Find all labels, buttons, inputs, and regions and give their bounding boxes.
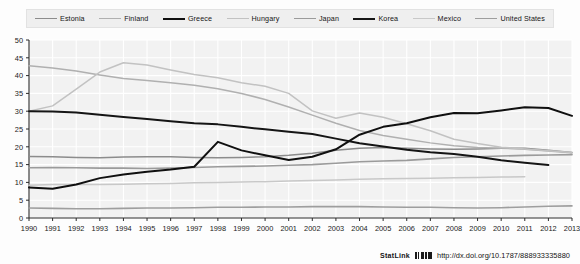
x-axis-tick-label: 1993 [92, 224, 108, 233]
legend-label: Finland [124, 14, 148, 23]
x-axis-tick-label: 1994 [115, 224, 131, 233]
legend-swatch-line-icon [475, 18, 497, 19]
legend-swatch-line-icon [227, 18, 249, 19]
x-axis-tick-label: 2009 [469, 224, 485, 233]
y-axis-tick-label: 45 [15, 54, 23, 63]
y-axis-tick-label: 25 [15, 125, 23, 134]
y-axis-tick-label: 0 [19, 214, 23, 223]
line-chart: 0510152025303540455019901991199219931994… [0, 32, 580, 244]
legend-label: Mexico [438, 14, 461, 23]
x-axis-tick-label: 2008 [446, 224, 462, 233]
legend-item-greece[interactable]: Greece [163, 14, 212, 23]
legend-item-japan[interactable]: Japan [294, 14, 339, 23]
y-axis-tick-label: 10 [15, 178, 23, 187]
x-axis-tick-label: 2002 [304, 224, 320, 233]
x-axis-tick-label: 2001 [280, 224, 296, 233]
x-axis-tick-label: 2006 [399, 224, 415, 233]
chart-legend: EstoniaFinlandGreeceHungaryJapanKoreaMex… [26, 9, 554, 28]
legend-swatch-line-icon [294, 18, 316, 19]
statlink-label: StatLink [380, 252, 410, 259]
plot-area: 0510152025303540455019901991199219931994… [0, 32, 580, 244]
legend-label: Estonia [60, 14, 85, 23]
x-axis-tick-label: 2005 [375, 224, 391, 233]
legend-swatch-line-icon [35, 18, 57, 19]
y-axis-tick-label: 40 [15, 71, 23, 80]
legend-label: Greece [188, 14, 212, 23]
x-axis-tick-label: 2003 [328, 224, 344, 233]
legend-item-finland[interactable]: Finland [99, 14, 148, 23]
x-axis-tick-label: 1990 [21, 224, 37, 233]
barcode-icon [415, 252, 432, 259]
x-axis-tick-label: 1996 [162, 224, 178, 233]
y-axis-tick-label: 5 [19, 196, 23, 205]
statlink-url[interactable]: http://dx.doi.org/10.1787/888933335880 [437, 251, 570, 260]
x-axis-tick-label: 2013 [564, 224, 580, 233]
legend-item-mexico[interactable]: Mexico [413, 14, 461, 23]
chart-page: EstoniaFinlandGreeceHungaryJapanKoreaMex… [0, 0, 580, 264]
x-axis-tick-label: 2000 [257, 224, 273, 233]
legend-swatch-line-icon [163, 18, 185, 20]
legend-swatch-line-icon [99, 18, 121, 19]
x-axis-tick-label: 1997 [186, 224, 202, 233]
legend-item-korea[interactable]: Korea [353, 14, 398, 23]
legend-swatch-line-icon [353, 18, 375, 20]
x-axis-tick-label: 2010 [493, 224, 509, 233]
x-axis-tick-label: 2012 [540, 224, 556, 233]
legend-label: Korea [378, 14, 398, 23]
chart-footer: StatLink http://dx.doi.org/10.1787/88893… [0, 251, 580, 260]
x-axis-tick-label: 1998 [210, 224, 226, 233]
y-axis-tick-label: 30 [15, 107, 23, 116]
x-axis-tick-label: 1991 [44, 224, 60, 233]
y-axis-tick-label: 35 [15, 89, 23, 98]
y-axis-tick-label: 50 [15, 36, 23, 45]
x-axis-tick-label: 2007 [422, 224, 438, 233]
legend-item-united-states[interactable]: United States [475, 14, 544, 23]
y-axis-tick-label: 15 [15, 160, 23, 169]
x-axis-tick-label: 1999 [233, 224, 249, 233]
x-axis-tick-label: 1992 [68, 224, 84, 233]
x-axis-tick-label: 1995 [139, 224, 155, 233]
x-axis-tick-label: 2004 [351, 224, 367, 233]
legend-label: Hungary [252, 14, 280, 23]
x-axis-tick-label: 2011 [517, 224, 533, 233]
legend-item-hungary[interactable]: Hungary [227, 14, 280, 23]
legend-label: Japan [319, 14, 339, 23]
legend-item-estonia[interactable]: Estonia [35, 14, 85, 23]
y-axis-tick-label: 20 [15, 143, 23, 152]
legend-swatch-line-icon [413, 18, 435, 19]
legend-label: United States [500, 14, 544, 23]
